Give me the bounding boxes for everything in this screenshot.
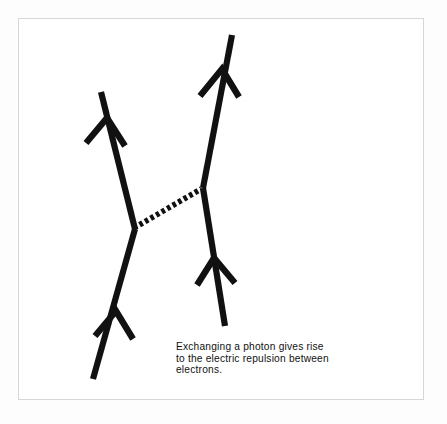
electron-right-upper-segment: [203, 35, 232, 188]
electron-left-lower-segment: [93, 229, 135, 379]
figure-canvas: Exchanging a photon gives rise to the el…: [0, 0, 447, 424]
photon-exchange-line: [134, 189, 201, 228]
figure-caption: Exchanging a photon gives rise to the el…: [176, 341, 356, 376]
electron-left-lower-arrowhead-icon: [95, 311, 133, 339]
electron-left-upper-segment: [101, 92, 135, 229]
electron-left-upper-arrowhead-icon: [86, 118, 125, 146]
